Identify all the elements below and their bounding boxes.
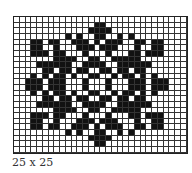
knitting-chart-grid: [13, 16, 188, 154]
empty-cell: [181, 147, 187, 153]
chart-size-caption: 25 x 25: [12, 156, 53, 169]
